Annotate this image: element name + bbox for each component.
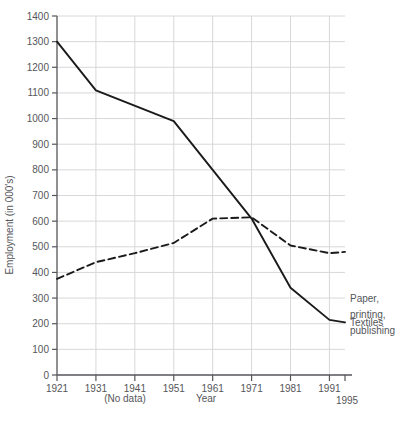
y-tick-label-100: 100: [32, 344, 49, 355]
y-tick-label-400: 400: [32, 267, 49, 278]
y-tick-label-700: 700: [32, 190, 49, 201]
no-data-note: (No data): [104, 393, 146, 404]
y-tick-label-200: 200: [32, 318, 49, 329]
x-axis-title: Year: [196, 393, 217, 404]
y-tick-label-1100: 1100: [27, 87, 49, 98]
y-tick-label-1300: 1300: [27, 36, 50, 47]
y-tick-label-1200: 1200: [27, 62, 50, 73]
x-tick-label-1981: 1981: [279, 383, 302, 394]
y-tick-label-900: 900: [32, 139, 49, 150]
y-tick-label-1400: 1400: [27, 11, 50, 22]
y-tick-label-800: 800: [32, 164, 49, 175]
x-tick-label-1991: 1991: [318, 383, 341, 394]
chart-canvas: 0100200300400500600700800900100011001200…: [0, 0, 401, 423]
x-tick-label-1971: 1971: [240, 383, 263, 394]
y-tick-label-0: 0: [43, 370, 49, 381]
y-tick-label-600: 600: [32, 216, 49, 227]
series-label-textiles: Textiles: [350, 317, 383, 328]
x-tick-label-1951: 1951: [163, 383, 186, 394]
series-label-paper-line-0: Paper,: [350, 293, 379, 304]
y-tick-label-300: 300: [32, 293, 49, 304]
y-tick-label-1000: 1000: [27, 113, 50, 124]
employment-line-chart: 0100200300400500600700800900100011001200…: [0, 0, 401, 423]
x-tick-label-1921: 1921: [46, 383, 69, 394]
y-axis-title: Employment (in 000's): [4, 175, 15, 274]
y-tick-label-500: 500: [32, 241, 49, 252]
chart-background: [0, 0, 401, 423]
x-tick-label-1995: 1995: [336, 395, 359, 406]
